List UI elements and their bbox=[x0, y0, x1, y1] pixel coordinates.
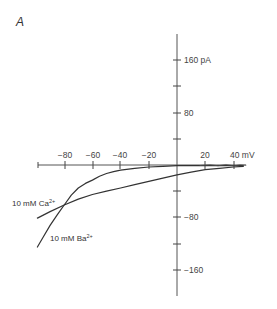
panel-label: A bbox=[15, 15, 24, 29]
y-tick-label-p80: 80 bbox=[184, 108, 194, 118]
x-tick-label-m60: −60 bbox=[86, 150, 101, 160]
x-axis-tick-labels: −80 −60 −40 −20 20 40 mV bbox=[58, 150, 255, 160]
x-tick-label-p20: 20 bbox=[200, 150, 210, 160]
x-tick-label-m40: −40 bbox=[113, 150, 128, 160]
iv-curve-chart: A −80 −60 −40 −20 20 40 mV 160 pA 80 −80 bbox=[0, 0, 277, 309]
y-tick-label-p160: 160 pA bbox=[184, 55, 211, 65]
ca-series-label: 10 mM Ca2+ bbox=[12, 198, 55, 208]
x-tick-label-m20: −20 bbox=[142, 150, 157, 160]
y-tick-label-m80: −80 bbox=[184, 212, 199, 222]
ba-series-label: 10 mM Ba2+ bbox=[50, 233, 93, 243]
ca-current-curve bbox=[37, 166, 243, 218]
x-tick-label-p40: 40 mV bbox=[230, 150, 255, 160]
x-tick-label-m80: −80 bbox=[58, 150, 73, 160]
y-tick-label-m160: −160 bbox=[184, 265, 203, 275]
